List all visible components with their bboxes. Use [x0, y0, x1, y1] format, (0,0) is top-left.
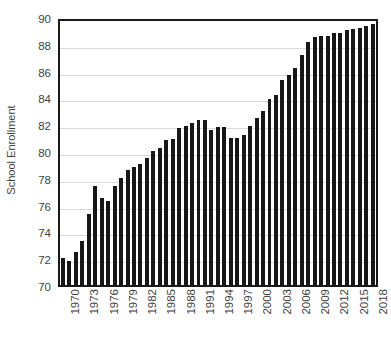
x-tick-label: 2018 — [377, 289, 389, 315]
bar — [184, 126, 188, 285]
y-axis-title-label: School Enrollment — [5, 105, 17, 194]
x-tick-label: 2012 — [338, 289, 350, 315]
bar-series — [60, 21, 376, 285]
x-tick-label: 1979 — [127, 289, 139, 315]
y-tick-label: 88 — [38, 40, 51, 52]
x-tick-label: 1985 — [165, 289, 177, 315]
bar — [235, 138, 239, 285]
bar — [158, 148, 162, 285]
y-tick-label: 80 — [38, 147, 51, 159]
x-tick-label: 1982 — [146, 289, 158, 315]
bar — [268, 99, 272, 285]
bar — [61, 258, 65, 285]
bar — [100, 198, 104, 285]
bar — [132, 167, 136, 285]
y-tick-label: 86 — [38, 67, 51, 79]
bar — [332, 33, 336, 285]
bar — [87, 214, 91, 285]
bar — [203, 120, 207, 285]
y-tick-label: 70 — [38, 281, 51, 293]
bar — [93, 186, 97, 285]
bar — [313, 37, 317, 285]
bar — [151, 151, 155, 285]
bar — [138, 164, 142, 285]
y-tick-label: 90 — [38, 13, 51, 25]
bar — [300, 55, 304, 285]
bar — [171, 139, 175, 285]
y-tick-label: 76 — [38, 201, 51, 213]
bar — [164, 140, 168, 285]
x-tick-label: 2006 — [300, 289, 312, 315]
bar — [274, 95, 278, 285]
bar — [345, 30, 349, 285]
bar — [280, 80, 284, 285]
bar — [338, 33, 342, 285]
bar — [229, 138, 233, 285]
y-tick-label: 74 — [38, 227, 51, 239]
x-tick-label: 1976 — [108, 289, 120, 315]
x-tick-label: 1988 — [185, 289, 197, 315]
bar — [113, 186, 117, 285]
bar — [126, 170, 130, 285]
bar — [287, 75, 291, 285]
y-tick-label: 84 — [38, 93, 51, 105]
bar — [293, 68, 297, 285]
bar — [261, 111, 265, 285]
y-tick-label: 72 — [38, 254, 51, 266]
bar — [145, 158, 149, 285]
bar — [364, 26, 368, 285]
bar — [351, 29, 355, 285]
x-tick-label: 1970 — [69, 289, 81, 315]
x-tick-label: 2000 — [261, 289, 273, 315]
x-tick-label: 1973 — [88, 289, 100, 315]
y-tick-label: 82 — [38, 120, 51, 132]
bar — [209, 130, 213, 285]
bar — [255, 118, 259, 286]
y-tick-label: 78 — [38, 174, 51, 186]
bar — [190, 123, 194, 285]
bar — [371, 24, 375, 285]
y-axis-title: School Enrollment — [0, 0, 22, 300]
y-axis-tick-labels: 7072747678808284868890 — [22, 19, 56, 287]
bar — [177, 128, 181, 285]
bar — [248, 126, 252, 285]
x-tick-label: 1991 — [204, 289, 216, 315]
x-tick-label: 1994 — [223, 289, 235, 315]
bar — [119, 178, 123, 285]
x-tick-label: 1997 — [242, 289, 254, 315]
plot-area — [58, 19, 378, 287]
bar — [358, 28, 362, 285]
bar — [216, 127, 220, 285]
bar — [74, 252, 78, 286]
bar — [242, 135, 246, 285]
x-tick-label: 2003 — [281, 289, 293, 315]
bar-chart: School Enrollment 7072747678808284868890… — [0, 0, 391, 339]
bar — [67, 261, 71, 285]
x-tick-label: 2015 — [358, 289, 370, 315]
bar — [197, 120, 201, 285]
bar — [106, 201, 110, 285]
x-axis-tick-labels: 1970197319761979198219851988199119941997… — [58, 289, 378, 339]
bar — [80, 241, 84, 285]
bar — [222, 127, 226, 285]
bar — [319, 36, 323, 285]
x-tick-label: 2009 — [319, 289, 331, 315]
bar — [306, 42, 310, 285]
bar — [326, 36, 330, 285]
